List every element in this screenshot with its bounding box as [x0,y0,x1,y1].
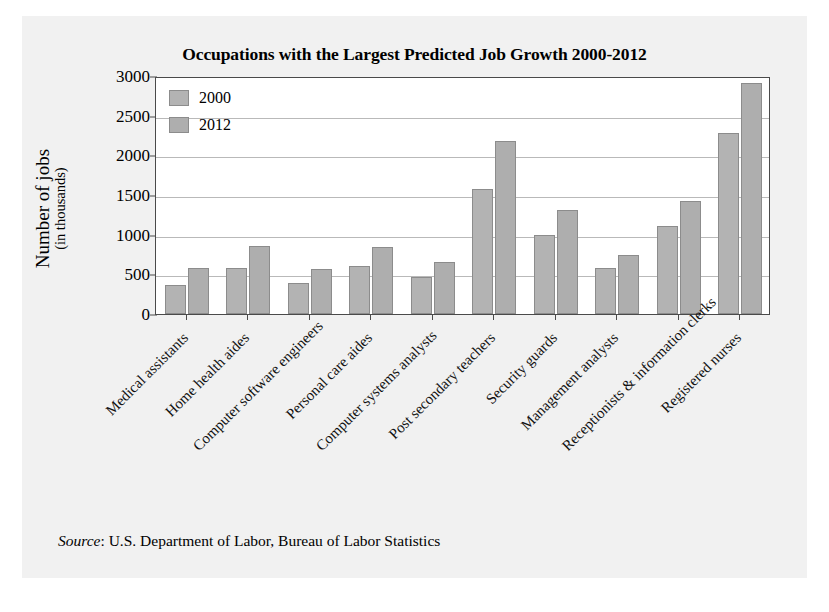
bar-2012-0 [188,268,209,314]
chart-panel: Occupations with the Largest Predicted J… [22,16,807,578]
bar-2000-5 [472,189,493,314]
y-axis-title-main: Number of jobs [33,109,53,309]
bar-2012-2 [311,269,332,314]
x-axis-tick-mark [678,315,679,320]
x-axis-tick-mark [370,315,371,320]
x-axis-label-5: Post secondary teachers [374,329,499,454]
y-axis-title: Number of jobs (in thousands) [33,109,68,309]
legend-swatch-2000 [169,90,189,106]
x-axis-label-2: Computer software engineers [190,329,315,454]
y-axis-tick-label: 500 [125,265,151,285]
bar-2012-6 [557,210,578,314]
legend-item-2012[interactable]: 2012 [169,116,231,134]
x-axis-tick-marks [155,315,770,321]
bar-series-container [156,78,769,314]
bar-2000-6 [534,235,555,314]
bar-2000-2 [288,283,309,314]
x-axis-tick-mark [309,315,310,320]
bar-2000-0 [165,285,186,314]
chart-title: Occupations with the Largest Predicted J… [22,44,807,65]
source-label: Source [58,532,100,549]
x-axis-tick-mark [493,315,494,320]
chart-legend: 20002012 [169,89,231,143]
y-axis-title-units: (in thousands) [53,109,68,309]
y-axis-tick-label: 1500 [116,186,150,206]
x-axis-tick-mark [555,315,556,320]
source-text: : U.S. Department of Labor, Bureau of La… [100,532,440,549]
legend-label-2000: 2000 [199,89,231,107]
x-axis-label-7: Management analysts [497,329,622,454]
legend-swatch-2012 [169,117,189,133]
bar-2012-7 [618,255,639,315]
bar-2000-8 [657,226,678,314]
x-axis-tick-mark [186,315,187,320]
y-axis-tick-labels: 050010001500200025003000 [82,77,150,315]
legend-item-2000[interactable]: 2000 [169,89,231,107]
bar-2000-9 [718,133,739,314]
source-note: Source: U.S. Department of Labor, Bureau… [58,532,440,550]
bar-2012-1 [249,246,270,314]
bar-2012-3 [372,247,393,314]
y-axis-tick-label: 2000 [116,146,150,166]
x-axis-label-6: Security guards [436,329,561,454]
legend-label-2012: 2012 [199,116,231,134]
bar-2000-4 [411,277,432,314]
x-axis-tick-mark [247,315,248,320]
x-axis-label-3: Personal care aides [251,329,376,454]
page-canvas: Occupations with the Largest Predicted J… [0,0,829,612]
y-axis-tick-label: 2500 [116,107,150,127]
bar-2012-9 [741,83,762,314]
x-axis-label-8: Receptionists & information clerks [559,329,684,454]
y-axis-tick-label: 3000 [116,67,150,87]
bar-2000-1 [226,268,247,314]
bar-2012-5 [495,141,516,314]
x-axis-label-0: Medical assistants [67,329,192,454]
bar-2012-4 [434,262,455,314]
x-axis-tick-mark [739,315,740,320]
x-axis-tick-mark [432,315,433,320]
x-axis-tick-mark [616,315,617,320]
bar-2000-7 [595,268,616,314]
bar-2000-3 [349,266,370,314]
y-axis-tick-label: 1000 [116,226,150,246]
plot-area [155,77,770,315]
bar-2012-8 [680,201,701,314]
y-axis-tick-label: 0 [142,305,151,325]
x-axis-label-9: Registered nurses [620,329,745,454]
x-axis-label-4: Computer systems analysts [313,329,438,454]
x-axis-label-1: Home health aides [128,329,253,454]
